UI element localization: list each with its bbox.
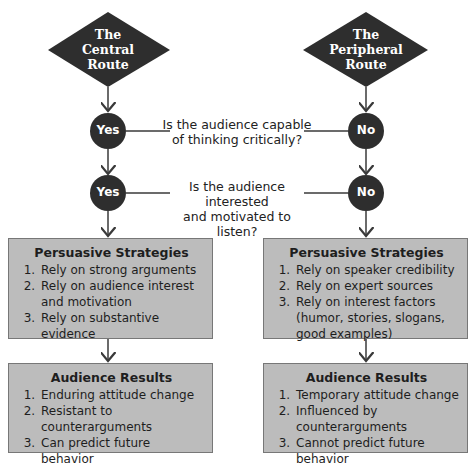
- central-answer-1-label: Yes: [88, 123, 128, 137]
- central-strategies-list: Rely on strong arguments Rely on audienc…: [19, 262, 204, 342]
- peripheral-strategies-list: Rely on speaker credibility Rely on expe…: [274, 262, 459, 342]
- peripheral-strategies-box: Persuasive Strategies Rely on speaker cr…: [263, 238, 468, 339]
- central-result-item: Can predict future behavior: [39, 435, 204, 467]
- question-2-line-2: and motivated to listen?: [162, 209, 312, 239]
- peripheral-strategies-heading: Persuasive Strategies: [274, 245, 459, 260]
- central-result-item: Enduring attitude change: [39, 387, 204, 403]
- peripheral-answer-2-label: No: [346, 185, 386, 199]
- peripheral-results-box: Audience Results Temporary attitude chan…: [263, 363, 468, 453]
- central-route-title: The Central Route: [53, 27, 163, 72]
- question-2-line-1: Is the audience interested: [162, 179, 312, 209]
- question-1: Is the audience capable of thinking crit…: [162, 117, 312, 147]
- peripheral-results-heading: Audience Results: [274, 370, 459, 385]
- peripheral-result-item: Cannot predict future behavior: [294, 435, 459, 467]
- question-1-line-1: Is the audience capable: [162, 117, 312, 132]
- peripheral-result-item: Temporary attitude change: [294, 387, 459, 403]
- peripheral-title-line-2: Peripheral: [311, 42, 421, 57]
- peripheral-answer-1-label: No: [346, 123, 386, 137]
- central-result-item: Resistant to counterarguments: [39, 403, 204, 435]
- peripheral-strategy-item: Rely on speaker credibility: [294, 262, 459, 278]
- central-strategy-item: Rely on strong arguments: [39, 262, 204, 278]
- peripheral-strategy-item: Rely on expert sources: [294, 278, 459, 294]
- central-results-list: Enduring attitude change Resistant to co…: [19, 387, 204, 467]
- peripheral-result-item: Influenced by counterarguments: [294, 403, 459, 435]
- central-strategies-box: Persuasive Strategies Rely on strong arg…: [8, 238, 213, 339]
- peripheral-route-title: The Peripheral Route: [311, 27, 421, 72]
- peripheral-strategy-item: Rely on interest factors (humor, stories…: [294, 294, 459, 342]
- question-1-line-2: of thinking critically?: [162, 132, 312, 147]
- central-title-line-2: Central: [53, 42, 163, 57]
- question-2: Is the audience interested and motivated…: [162, 179, 312, 239]
- central-title-line-1: The: [53, 27, 163, 42]
- central-results-heading: Audience Results: [19, 370, 204, 385]
- central-title-line-3: Route: [53, 57, 163, 72]
- central-answer-2-label: Yes: [88, 185, 128, 199]
- central-strategies-heading: Persuasive Strategies: [19, 245, 204, 260]
- central-strategy-item: Rely on substantive evidence: [39, 310, 204, 342]
- peripheral-title-line-1: The: [311, 27, 421, 42]
- peripheral-title-line-3: Route: [311, 57, 421, 72]
- peripheral-results-list: Temporary attitude change Influenced by …: [274, 387, 459, 467]
- central-results-box: Audience Results Enduring attitude chang…: [8, 363, 213, 453]
- central-strategy-item: Rely on audience interest and motivation: [39, 278, 204, 310]
